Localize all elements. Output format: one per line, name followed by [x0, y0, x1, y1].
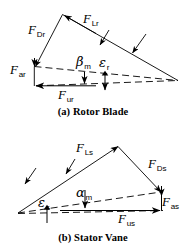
- label-stator-epsilon-angle: εs: [38, 194, 50, 212]
- panel-stator-vane: FLs FDs Fas Fus αm εs (b) Stator Vane: [0, 126, 186, 252]
- label-stator-axial: Fas: [162, 193, 179, 211]
- caption-stator-vane: (b) Stator Vane: [0, 232, 186, 243]
- caption-rotor-blade: (a) Rotor Blade: [0, 106, 186, 117]
- panel-rotor-blade: FDr FLr Far Fur βm εr (a) Rotor Blade: [0, 0, 186, 126]
- figure-force-triangles: FDr FLr Far Fur βm εr (a) Rotor Blade: [0, 0, 186, 252]
- label-stator-drag: FDs: [148, 155, 166, 173]
- label-rotor-beta-angle: βm: [76, 53, 91, 71]
- label-stator-tangential: Fus: [118, 210, 135, 228]
- rotor-resultant-perpendicular-tick: [133, 34, 147, 53]
- rotor-axial-reference-dashed: [36, 81, 178, 86]
- stator-lift-perpendicular-tick: [66, 159, 75, 174]
- label-rotor-drag: FDr: [28, 21, 45, 39]
- label-rotor-tangential: Fur: [58, 86, 74, 104]
- label-stator-alpha-angle: αm: [76, 184, 92, 202]
- label-rotor-epsilon-angle: εr: [99, 54, 109, 72]
- label-rotor-axial: Far: [10, 61, 26, 79]
- label-stator-lift: FLs: [76, 139, 93, 157]
- rotor-lift-perpendicular-tick: [100, 30, 109, 45]
- label-rotor-lift: FLr: [83, 10, 99, 28]
- stator-outer-perpendicular-tick: [25, 168, 36, 184]
- stator-lift-vector: [18, 147, 118, 214]
